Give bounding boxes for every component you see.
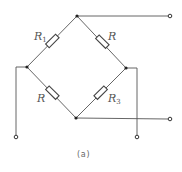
figure-caption: (a) — [76, 150, 90, 159]
resistor-r-bottom-left — [46, 86, 59, 99]
node-bottom — [74, 116, 77, 119]
node-left — [25, 65, 28, 68]
node-right — [124, 66, 127, 69]
resistor-r3 — [94, 86, 107, 99]
label-r-bottom-left: R — [36, 92, 45, 105]
wire-right-input — [126, 68, 137, 135]
label-r1: R1 — [33, 30, 47, 44]
terminal-top-right — [168, 14, 172, 18]
wire-bottom-output — [76, 118, 168, 119]
wire-left-input — [16, 67, 27, 135]
bridge-circuit-diagram: R1 R R R3 (a) — [0, 0, 182, 172]
label-r3: R3 — [107, 92, 121, 106]
label-r-top-right: R — [107, 30, 116, 43]
terminal-right — [135, 135, 139, 139]
terminal-left — [14, 135, 18, 139]
terminal-bottom-right — [168, 117, 172, 121]
node-top — [75, 14, 78, 17]
resistor-r1 — [46, 34, 59, 47]
